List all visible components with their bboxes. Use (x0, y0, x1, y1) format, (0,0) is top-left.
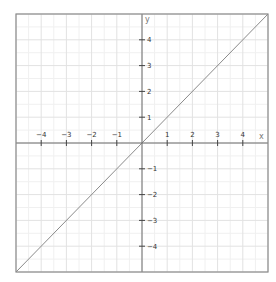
y-tick-label: −1 (147, 165, 157, 173)
x-tick-label: 2 (190, 131, 194, 139)
y-tick-label: −2 (147, 191, 157, 199)
x-axis-label: x (259, 132, 264, 141)
x-tick-label: −4 (36, 131, 47, 139)
y-tick-label: 4 (147, 36, 152, 44)
x-tick-label: 3 (215, 131, 219, 139)
function-plot: −4−3−2−112344321−1−2−3−4 x y (0, 0, 276, 282)
x-tick-label: 4 (241, 131, 246, 139)
x-tick-label: −2 (86, 131, 96, 139)
y-tick-label: −3 (147, 217, 157, 225)
y-tick-label: −4 (147, 243, 158, 251)
y-tick-label: 3 (147, 62, 151, 70)
y-tick-label: 1 (147, 114, 151, 122)
x-tick-label: 1 (165, 131, 169, 139)
y-tick-label: 2 (147, 88, 151, 96)
x-tick-label: −1 (112, 131, 122, 139)
x-tick-label: −3 (61, 131, 71, 139)
y-axis-label: y (145, 15, 150, 24)
